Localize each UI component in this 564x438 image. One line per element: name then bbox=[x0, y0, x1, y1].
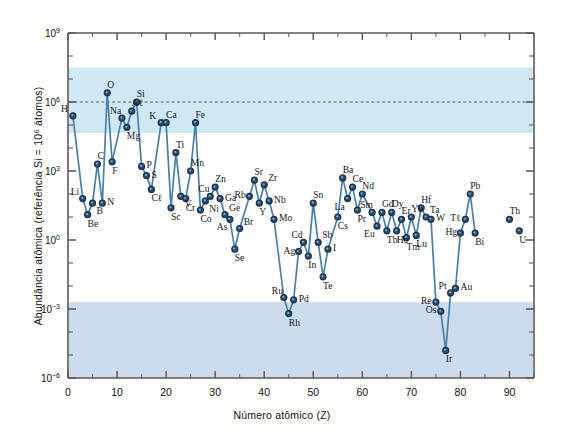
data-point-highlight bbox=[101, 202, 103, 204]
data-point-highlight bbox=[449, 291, 451, 293]
data-point-highlight bbox=[81, 197, 83, 199]
data-point-highlight bbox=[341, 176, 343, 178]
data-point-highlight bbox=[223, 213, 225, 215]
element-label-Ti: Ti bbox=[176, 140, 184, 150]
x-tick-label: 90 bbox=[496, 386, 522, 398]
data-point-highlight bbox=[439, 310, 441, 312]
element-label-Be: Be bbox=[88, 219, 99, 229]
element-label-Tℓ: Tℓ bbox=[450, 213, 460, 223]
element-label-Eu: Eu bbox=[364, 229, 375, 239]
element-label-As: As bbox=[217, 222, 228, 232]
element-label-N: N bbox=[107, 197, 114, 207]
data-point-highlight bbox=[424, 215, 426, 217]
data-point-highlight bbox=[385, 229, 387, 231]
data-point-highlight bbox=[106, 91, 108, 93]
data-point-highlight bbox=[96, 163, 98, 165]
data-point-highlight bbox=[111, 160, 113, 162]
abundance-figure: Número atômico (Z) Abundância atômica (r… bbox=[0, 0, 564, 438]
element-label-Ba: Ba bbox=[343, 165, 354, 175]
data-point-highlight bbox=[160, 121, 162, 123]
element-label-Cs: Cs bbox=[338, 221, 348, 231]
element-label-Sr: Sr bbox=[254, 167, 263, 177]
element-label-S: S bbox=[151, 170, 156, 180]
data-point-highlight bbox=[272, 218, 274, 220]
data-point-highlight bbox=[263, 183, 265, 185]
data-point-highlight bbox=[464, 218, 466, 220]
data-point-highlight bbox=[351, 186, 353, 188]
element-label-Co: Co bbox=[200, 214, 211, 224]
element-label-Pd: Pd bbox=[299, 294, 309, 304]
x-tick-label: 70 bbox=[398, 386, 424, 398]
element-label-Lu: Lu bbox=[416, 239, 427, 249]
data-point-highlight bbox=[165, 121, 167, 123]
element-label-Na: Na bbox=[110, 106, 121, 116]
element-label-Aℓ: Aℓ bbox=[132, 98, 144, 108]
element-label-O: O bbox=[107, 80, 114, 90]
element-label-Mo: Mo bbox=[279, 213, 292, 223]
data-point-highlight bbox=[312, 202, 314, 204]
y-tick-label: 109 bbox=[26, 27, 60, 39]
element-label-Pt: Pt bbox=[439, 281, 447, 291]
element-label-Yb: Yb bbox=[411, 204, 423, 214]
data-point-highlight bbox=[390, 211, 392, 213]
data-point-highlight bbox=[326, 248, 328, 250]
element-label-Ag: Ag bbox=[284, 246, 296, 256]
data-point-highlight bbox=[209, 195, 211, 197]
element-label-U: U bbox=[519, 235, 526, 245]
element-label-Cℓ: Cℓ bbox=[151, 193, 162, 203]
data-point-highlight bbox=[194, 121, 196, 123]
data-point-highlight bbox=[218, 197, 220, 199]
data-point-highlight bbox=[361, 192, 363, 194]
element-label-Pb: Pb bbox=[470, 181, 480, 191]
element-label-Bi: Bi bbox=[475, 237, 484, 247]
element-label-La: La bbox=[335, 202, 345, 212]
data-point-highlight bbox=[287, 312, 289, 314]
data-point-highlight bbox=[174, 151, 176, 153]
data-point-highlight bbox=[434, 301, 436, 303]
element-label-Pr: Pr bbox=[357, 214, 366, 224]
y-tick-label: 106 bbox=[26, 96, 60, 108]
element-label-Br: Br bbox=[244, 217, 254, 227]
element-label-Cr: Cr bbox=[186, 203, 196, 213]
x-tick-label: 0 bbox=[55, 386, 81, 398]
element-label-Y: Y bbox=[259, 207, 266, 217]
data-point-highlight bbox=[429, 218, 431, 220]
data-point-highlight bbox=[400, 218, 402, 220]
data-point-highlight bbox=[258, 202, 260, 204]
data-point-highlight bbox=[454, 287, 456, 289]
y-tick-label: 10−6 bbox=[26, 372, 60, 384]
data-point-highlight bbox=[145, 174, 147, 176]
data-point-highlight bbox=[469, 192, 471, 194]
data-point-highlight bbox=[375, 225, 377, 227]
data-point-highlight bbox=[238, 227, 240, 229]
data-point-highlight bbox=[91, 202, 93, 204]
data-point-highlight bbox=[336, 215, 338, 217]
data-point-highlight bbox=[179, 195, 181, 197]
data-point-highlight bbox=[140, 165, 142, 167]
element-label-Fe: Fe bbox=[196, 110, 206, 120]
data-point-highlight bbox=[321, 275, 323, 277]
data-point-highlight bbox=[356, 209, 358, 211]
element-label-Rh: Rh bbox=[289, 318, 300, 328]
data-point-highlight bbox=[395, 229, 397, 231]
element-label-Nb: Nb bbox=[274, 195, 286, 205]
lower-abundance-band bbox=[69, 302, 533, 378]
element-label-Os: Os bbox=[426, 305, 437, 315]
x-tick-label: 60 bbox=[349, 386, 375, 398]
data-point-highlight bbox=[474, 232, 476, 234]
element-label-Sn: Sn bbox=[313, 190, 323, 200]
y-tick-label: 100 bbox=[26, 234, 60, 246]
x-tick-label: 50 bbox=[300, 386, 326, 398]
x-tick-label: 80 bbox=[447, 386, 473, 398]
y-axis-label: Abundância atômica (referência Si = 10⁶ … bbox=[32, 87, 44, 326]
element-label-Er: Er bbox=[402, 206, 411, 216]
element-label-H: H bbox=[61, 104, 68, 114]
element-label-Rb: Rb bbox=[234, 190, 245, 200]
element-label-Th: Th bbox=[509, 206, 520, 216]
data-point-highlight bbox=[125, 126, 127, 128]
x-tick-label: 30 bbox=[202, 386, 228, 398]
element-label-Ni: Ni bbox=[209, 204, 219, 214]
data-point-highlight bbox=[297, 250, 299, 252]
element-label-Ge: Ge bbox=[229, 203, 240, 213]
data-point-highlight bbox=[248, 195, 250, 197]
